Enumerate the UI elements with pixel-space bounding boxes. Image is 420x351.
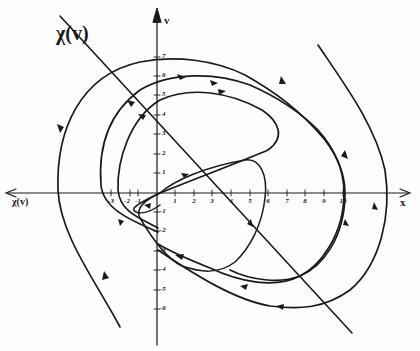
y-tick-label: -1 (160, 207, 166, 215)
x-tick-label: 4 (229, 197, 233, 205)
middle-trajectory (101, 76, 344, 283)
x-tick-label: 5 (248, 197, 252, 205)
y-tick-label: 6 (162, 71, 166, 79)
y-tick-label: -4 (160, 265, 166, 273)
y-tick-label: -2 (160, 226, 166, 234)
arrow-icon (279, 76, 286, 84)
arrow-icon (343, 219, 349, 226)
arrow-icon (240, 284, 248, 290)
direction-arrows (57, 74, 378, 310)
x-tick-label: 6 (266, 197, 270, 205)
y-tick-label: 2 (162, 149, 166, 157)
arrow-icon (118, 219, 124, 226)
x-tick-label: 2 (192, 197, 196, 205)
arrow-icon (144, 203, 151, 209)
x-axis-label: x (400, 196, 406, 208)
x-tick-label: 8 (303, 197, 307, 205)
x-tick-label: 9 (322, 197, 326, 205)
x-tick-label: 3 (210, 197, 214, 205)
arrow-icon (210, 80, 218, 86)
y-tick-label: 7 (162, 52, 166, 60)
x-tick-label: -2 (124, 197, 130, 205)
inner-trajectory (118, 92, 278, 228)
y-tick-label: 5 (162, 90, 166, 98)
arrow-icon (127, 100, 135, 107)
x-tick-label: 7 (285, 197, 289, 205)
y-tick-label: -3 (160, 246, 166, 254)
phase-plane-figure: χ(v) v x χ(v) -3 -2 -1 1 2 3 4 5 6 7 8 9… (0, 0, 420, 351)
arrow-icon (341, 150, 348, 159)
x-tick-label: 1 (173, 197, 177, 205)
x-axis-left-label: χ(v) (12, 196, 28, 207)
x-tick-label: -1 (135, 197, 141, 205)
arrow-icon (372, 202, 378, 210)
x-tick-label: -3 (108, 197, 114, 205)
y-tick-label: 4 (162, 110, 166, 118)
y-tick-label: 1 (162, 168, 166, 176)
phase-plane-svg (0, 0, 420, 351)
x-tick-label: 10 (340, 197, 347, 205)
arrow-icon (102, 271, 109, 280)
y-tick-label: -5 (160, 285, 166, 293)
y-tick-label: 3 (162, 129, 166, 137)
arrow-icon (175, 254, 184, 260)
arrow-icon (57, 124, 64, 133)
y-axis-label: v (164, 14, 170, 26)
chi-line-label: χ(v) (56, 22, 89, 45)
y-axis-arrow-icon (153, 8, 161, 22)
y-tick-label: -6 (160, 304, 166, 312)
